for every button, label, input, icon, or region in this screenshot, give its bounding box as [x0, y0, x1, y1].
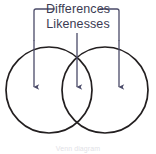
annotation-arrows	[34, 33, 119, 87]
differences-label: Differences	[0, 2, 156, 16]
right-circle	[62, 47, 148, 133]
left-circle	[6, 47, 92, 133]
venn-diagram-figure: Differences Likenesses Venn diagram	[0, 0, 156, 154]
figure-caption: Venn diagram	[0, 145, 156, 153]
likenesses-label: Likenesses	[0, 17, 156, 31]
